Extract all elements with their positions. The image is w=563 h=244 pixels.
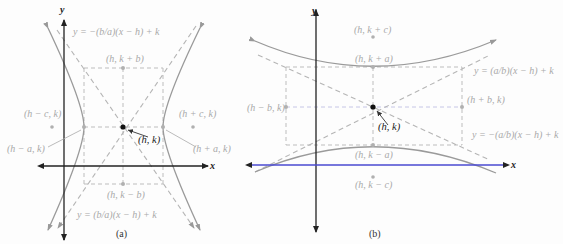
vertex-bottom-label: (h, k − a) [355,149,394,161]
y-axis-label-b: y [311,5,317,16]
focus-left-label: (h − c, k) [24,108,62,120]
focus-left-point [50,125,54,129]
center-label-b: (h, k) [378,121,401,133]
x-axis-label-b: x [510,159,516,170]
center-point-b [370,104,375,109]
co-vertex-bottom-point [121,182,125,186]
hyperbola-figure: x y y = −(b/a)(x − h) + k (h, k + b) (h,… [0,0,563,244]
asymptote-label-bottom-a: y = (b/a)(x − h) + k [76,209,157,221]
co-vertex-right-point [460,105,464,109]
vertex-left-point [82,125,86,129]
panel-b: x y (h, k + c) (h, k + a) y = (a/b)(x − … [245,5,559,240]
x-axis-right-arrow-icon-b [503,162,510,168]
x-axis-left-arrow-icon-b [245,162,252,168]
focus-right-label: (h + c, k) [179,108,217,120]
upper-asymptote-label: y = (a/b)(x − h) + k [473,65,554,77]
co-vertex-left-label: (h − b, k) [247,102,286,114]
center-label-a: (h, k) [138,134,161,146]
focus-bottom-label: (h, k − c) [355,179,393,191]
x-axis-label-a: x [209,160,215,171]
co-vertex-bottom-label: (h, k − b) [107,189,146,201]
panel-a: x y y = −(b/a)(x − h) + k (h, k + b) (h,… [7,4,232,241]
y-axis-label-a: y [59,4,65,15]
vertex-right-label: (h + a, k) [193,143,232,155]
right-branch [163,28,200,230]
co-vertex-top-point [121,66,125,70]
vertex-left-label: (h − a, k) [7,143,46,155]
vertex-right-leader [166,130,196,147]
vertex-top-label: (h, k + a) [355,53,394,65]
focus-right-point [191,125,195,129]
left-branch [48,28,84,230]
caption-a: (a) [116,228,127,240]
vertex-bottom-point [371,143,375,147]
center-point-a [120,124,125,129]
lower-asymptote-label: y = −(a/b)(x − h) + k [471,129,559,141]
focus-top-label: (h, k + c) [354,24,392,36]
asymptote-label-top-a: y = −(b/a)(x − h) + k [72,26,160,38]
vertex-right-point [161,125,165,129]
focus-top-point [371,35,375,39]
co-vertex-right-label: (h + b, k) [467,94,506,106]
caption-b: (b) [369,228,381,240]
y-axis-bottom-arrow-icon [61,234,67,241]
vertex-top-point [371,65,375,69]
x-axis-left-arrow-icon [37,163,44,169]
co-vertex-top-label: (h, k + b) [106,53,145,65]
y-axis-bottom-arrow-icon-b [313,226,319,233]
